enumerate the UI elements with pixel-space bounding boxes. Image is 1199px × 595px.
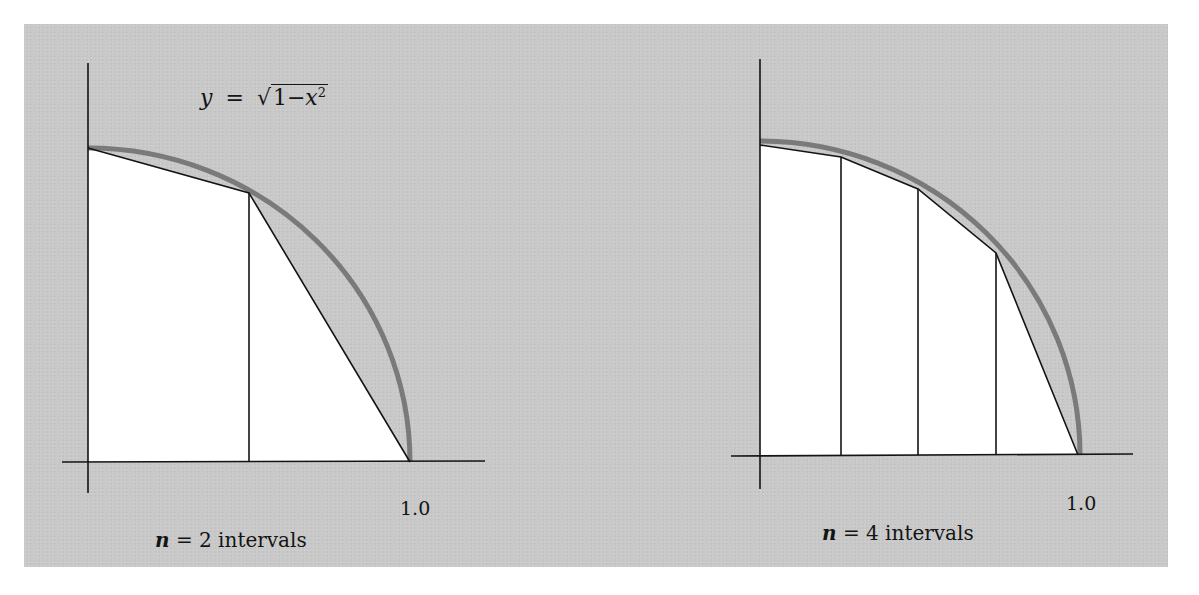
- radicand-prefix: 1−: [273, 85, 305, 110]
- trapezoid-diagrams: [0, 0, 1199, 595]
- right-caption-variable: n: [822, 521, 837, 545]
- left-caption-text: = 2 intervals: [170, 528, 307, 552]
- left-caption: n = 2 intervals: [155, 528, 307, 552]
- left-diagram: [62, 63, 485, 493]
- sqrt-symbol-icon: √: [257, 85, 271, 110]
- left-x-tick-label: 1.0: [400, 497, 430, 519]
- curve-equation-label: y = √1−x2: [200, 85, 328, 110]
- right-caption-text: = 4 intervals: [837, 521, 974, 545]
- right-diagram: [731, 59, 1133, 489]
- formula-radicand: 1−x2: [271, 84, 328, 110]
- left-x-axis: [62, 461, 485, 462]
- right-trapezoid-fill: [760, 145, 1078, 455]
- left-caption-variable: n: [155, 528, 170, 552]
- formula-lhs: y: [200, 85, 212, 110]
- formula-equals: =: [225, 85, 243, 110]
- right-x-tick-label: 1.0: [1066, 492, 1096, 514]
- radicand-variable: x: [305, 85, 317, 110]
- radicand-exponent: 2: [318, 85, 326, 100]
- right-caption: n = 4 intervals: [822, 521, 974, 545]
